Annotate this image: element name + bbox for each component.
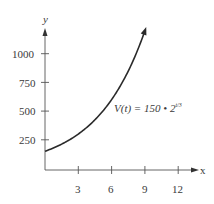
function-label: V(t) = 150 • 2t/3 <box>114 100 182 114</box>
x-axis-arrow-icon <box>191 168 199 173</box>
chart-container: y x 1000 750 500 250 3 6 9 12 V(t) = 150… <box>0 0 214 204</box>
y-axis-arrow-icon <box>43 28 48 36</box>
x-tick-label: 3 <box>75 184 81 195</box>
plot-area <box>0 0 214 204</box>
formula-text: V(t) = 150 • 2 <box>114 102 175 114</box>
x-axis-label: x <box>200 165 206 176</box>
y-tick-label: 1000 <box>12 49 34 60</box>
y-tick-label: 250 <box>19 135 36 146</box>
x-tick-label: 12 <box>172 184 183 195</box>
x-tick-label: 6 <box>108 184 114 195</box>
y-axis-label: y <box>43 14 48 25</box>
y-tick-label: 500 <box>19 106 36 117</box>
formula-exponent: t/3 <box>175 102 181 108</box>
curve-arrow-icon <box>141 27 147 36</box>
x-tick-label: 9 <box>142 184 148 195</box>
y-tick-label: 750 <box>19 78 36 89</box>
curve-line <box>45 31 145 152</box>
